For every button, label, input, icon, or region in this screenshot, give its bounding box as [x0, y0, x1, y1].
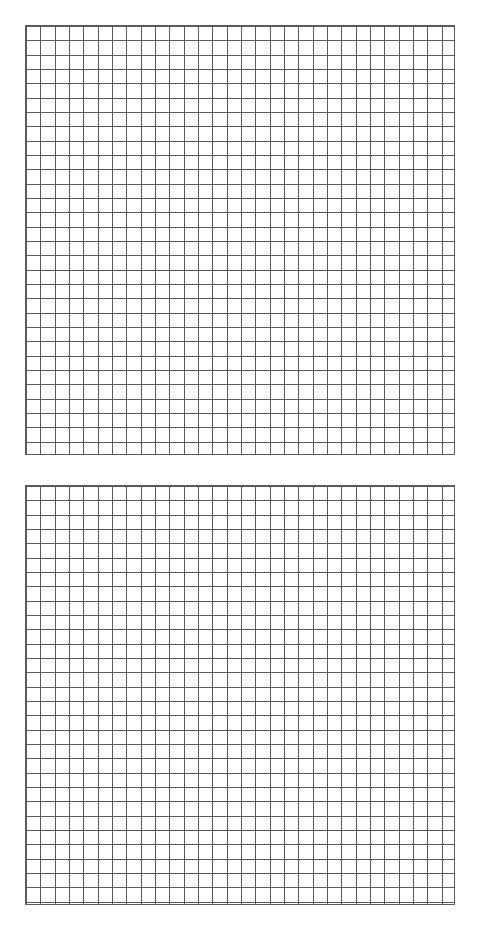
upper-grid[interactable]: Upper blank coordinate grid	[25, 25, 455, 455]
page-title: Blank Graph Paper Worksheet	[0, 21, 1, 22]
lower-grid-lines	[26, 486, 454, 904]
lower-grid[interactable]: Lower blank coordinate grid	[25, 485, 455, 905]
worksheet-page: Blank Graph Paper Worksheet Upper blank …	[0, 0, 485, 933]
upper-grid-lines	[26, 26, 454, 454]
